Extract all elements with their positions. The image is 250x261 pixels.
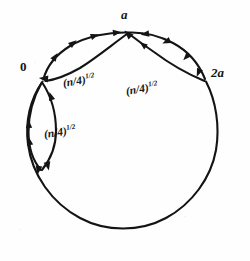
main-circle-arc bbox=[27, 82, 217, 229]
node-label-2a: 2a bbox=[211, 66, 224, 79]
edge-label-left-lens-exponent: 1/2 bbox=[66, 123, 76, 132]
figure-canvas: a 0 2a (n/4)1/2 (n/4)1/2 (n/4)1/2 bbox=[0, 0, 250, 261]
node-label-0: 0 bbox=[20, 60, 27, 73]
edge-label-left-lens-base: (n/4) bbox=[43, 125, 67, 140]
arrowhead-arc0a-4 bbox=[113, 29, 122, 36]
diagram-svg bbox=[0, 0, 250, 261]
edge-label-a-to-0-exponent: 1/2 bbox=[85, 71, 95, 80]
arrowhead-arc0a-1 bbox=[50, 51, 60, 62]
arrowhead-chord-2a-a bbox=[122, 28, 134, 40]
arrowhead-arc2aa-1 bbox=[140, 30, 149, 38]
arrowhead-arc2aa-3 bbox=[181, 52, 191, 63]
edge-label-2a-to-a-exponent: 1/2 bbox=[148, 79, 158, 88]
node-label-a: a bbox=[121, 8, 128, 21]
arrowhead-lens-outer-up-1 bbox=[25, 119, 32, 128]
